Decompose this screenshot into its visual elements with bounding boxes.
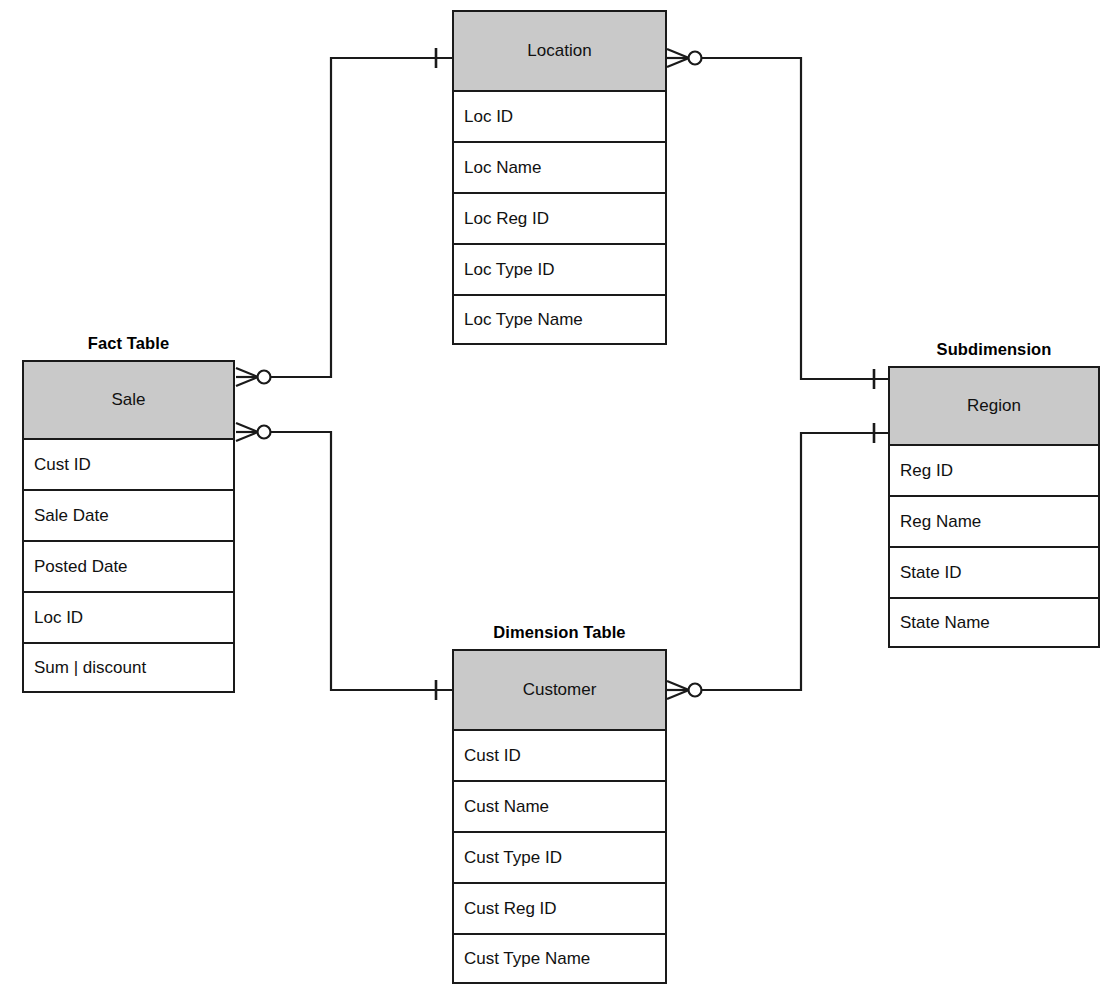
crowsfoot-sale-to-location	[236, 368, 271, 386]
attribute-row[interactable]: Reg Name	[890, 497, 1098, 548]
entity-customer-header: Customer	[454, 651, 665, 731]
entity-sale-role-label: Fact Table	[22, 334, 235, 353]
attribute-row[interactable]: State ID	[890, 548, 1098, 599]
attribute-label: Cust ID	[464, 746, 521, 766]
attribute-row[interactable]: Cust Type Name	[454, 935, 665, 982]
attribute-row[interactable]: Cust Type ID	[454, 833, 665, 884]
attribute-label: Loc Type Name	[464, 310, 583, 330]
entity-customer-attributes: Cust ID Cust Name Cust Type ID Cust Reg …	[454, 731, 665, 982]
attribute-label: Cust Type ID	[464, 848, 562, 868]
attribute-row[interactable]: Loc ID	[454, 92, 665, 143]
connector-customer-region	[697, 433, 888, 690]
attribute-row[interactable]: Cust Reg ID	[454, 884, 665, 935]
entity-location-attributes: Loc ID Loc Name Loc Reg ID Loc Type ID L…	[454, 92, 665, 343]
entity-location[interactable]: Location Loc ID Loc Name Loc Reg ID Loc …	[452, 10, 667, 345]
attribute-label: Loc Name	[464, 158, 541, 178]
entity-customer-role-label: Dimension Table	[452, 623, 667, 642]
connector-location-region	[697, 58, 888, 379]
attribute-label: Loc Reg ID	[464, 209, 549, 229]
entity-sale[interactable]: Sale Cust ID Sale Date Posted Date Loc I…	[22, 360, 235, 693]
attribute-row[interactable]: Loc ID	[24, 593, 233, 644]
entity-customer-name: Customer	[523, 680, 597, 700]
attribute-label: Cust ID	[34, 455, 91, 475]
attribute-label: Sale Date	[34, 506, 109, 526]
attribute-row[interactable]: Loc Type Name	[454, 296, 665, 343]
attribute-label: Loc ID	[34, 608, 83, 628]
attribute-label: Loc Type ID	[464, 260, 554, 280]
attribute-row[interactable]: Cust ID	[24, 440, 233, 491]
crowsfoot-location-to-region	[667, 49, 702, 67]
entity-sale-header: Sale	[24, 362, 233, 440]
attribute-label: Reg Name	[900, 512, 981, 532]
attribute-label: Cust Name	[464, 797, 549, 817]
attribute-row[interactable]: Loc Name	[454, 143, 665, 194]
attribute-label: Reg ID	[900, 461, 953, 481]
attribute-row[interactable]: Posted Date	[24, 542, 233, 593]
er-diagram-canvas: Location Loc ID Loc Name Loc Reg ID Loc …	[0, 0, 1113, 996]
attribute-row[interactable]: Sum | discount	[24, 644, 233, 691]
attribute-row[interactable]: Cust ID	[454, 731, 665, 782]
attribute-row[interactable]: State Name	[890, 599, 1098, 646]
entity-sale-attributes: Cust ID Sale Date Posted Date Loc ID Sum…	[24, 440, 233, 691]
entity-region-name: Region	[967, 396, 1021, 416]
entity-location-header: Location	[454, 12, 665, 92]
attribute-label: Sum | discount	[34, 658, 146, 678]
attribute-label: State Name	[900, 613, 990, 633]
entity-sale-name: Sale	[111, 390, 145, 410]
attribute-label: Loc ID	[464, 107, 513, 127]
connector-sale-customer	[266, 432, 452, 690]
entity-customer[interactable]: Customer Cust ID Cust Name Cust Type ID …	[452, 649, 667, 984]
entity-region[interactable]: Region Reg ID Reg Name State ID State Na…	[888, 366, 1100, 648]
entity-region-header: Region	[890, 368, 1098, 446]
attribute-row[interactable]: Sale Date	[24, 491, 233, 542]
entity-region-attributes: Reg ID Reg Name State ID State Name	[890, 446, 1098, 646]
attribute-label: Cust Reg ID	[464, 899, 557, 919]
attribute-label: State ID	[900, 563, 961, 583]
attribute-label: Cust Type Name	[464, 949, 590, 969]
attribute-row[interactable]: Loc Type ID	[454, 245, 665, 296]
crowsfoot-customer-to-region	[667, 681, 702, 699]
attribute-row[interactable]: Reg ID	[890, 446, 1098, 497]
attribute-row[interactable]: Loc Reg ID	[454, 194, 665, 245]
connector-sale-location	[266, 58, 452, 377]
attribute-label: Posted Date	[34, 557, 128, 577]
entity-location-name: Location	[527, 41, 591, 61]
crowsfoot-sale-to-customer	[236, 423, 271, 441]
attribute-row[interactable]: Cust Name	[454, 782, 665, 833]
entity-region-role-label: Subdimension	[888, 340, 1100, 359]
